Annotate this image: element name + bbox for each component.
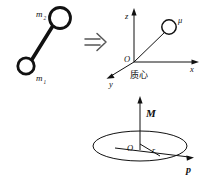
mass-1-label: m <box>36 73 43 83</box>
radius-line <box>140 144 160 156</box>
angular-momentum-label: M <box>145 107 157 119</box>
orbit-origin-label: O <box>127 143 133 153</box>
mass-1-subscript: 1 <box>44 79 47 85</box>
position-vector <box>134 31 166 62</box>
mass-2-circle <box>50 8 71 29</box>
x-axis-label: x <box>189 64 194 74</box>
reduced-mass-circle <box>162 20 176 34</box>
angular-momentum-arrowhead <box>137 96 142 104</box>
axes-3d-group <box>107 8 200 79</box>
implies-arrow-icon <box>85 34 106 51</box>
z-axis-arrowhead <box>131 8 136 16</box>
axes-origin-label: O <box>124 54 130 64</box>
mass-1-circle <box>18 58 34 74</box>
mass-2-subscript: 2 <box>44 15 47 21</box>
y-axis-label: y <box>108 79 113 89</box>
z-axis-label: z <box>124 11 129 21</box>
figure-canvas: m 2 m 1 z x y O 质心 μ <box>0 0 209 177</box>
orbit-group <box>93 96 194 161</box>
momentum-label: p <box>185 164 191 175</box>
center-of-mass-label: 质心 <box>130 69 148 80</box>
reduced-mass-label: μ <box>177 15 182 25</box>
physics-figure: m 2 m 1 z x y O 质心 μ <box>0 0 209 177</box>
mass-2-label: m <box>36 9 43 19</box>
momentum-arrowhead <box>186 156 194 161</box>
dumbbell-rod <box>31 24 54 61</box>
